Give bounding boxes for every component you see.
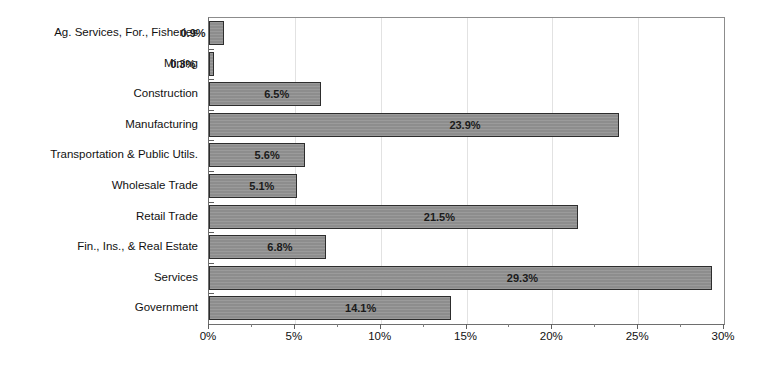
- bar[interactable]: [209, 296, 451, 320]
- category-label: Transportation & Public Utils.: [50, 139, 198, 170]
- bar[interactable]: [209, 113, 619, 137]
- bar-group: 5.6%: [209, 140, 724, 171]
- category-label: Manufacturing: [125, 109, 198, 140]
- bar-group: 5.1%: [209, 171, 724, 202]
- category-label: Services: [154, 262, 198, 293]
- x-tick-minor: [423, 324, 424, 327]
- x-tick-label: 15%: [454, 330, 477, 342]
- x-tick-minor: [337, 324, 338, 327]
- category-label: Government: [135, 292, 198, 323]
- x-tick-major: [294, 324, 295, 329]
- bar[interactable]: [209, 21, 224, 45]
- bar-group: 21.5%: [209, 202, 724, 233]
- bar-value-label: 5.6%: [255, 143, 280, 167]
- x-tick-minor: [251, 324, 252, 327]
- x-tick-minor: [680, 324, 681, 327]
- bar-value-label: 29.3%: [507, 266, 538, 290]
- bar-value-label: 6.8%: [267, 235, 292, 259]
- bar-group: 6.5%: [209, 79, 724, 110]
- x-tick-major: [723, 324, 724, 329]
- bar[interactable]: [209, 205, 578, 229]
- bar[interactable]: [209, 52, 214, 76]
- bar[interactable]: [209, 266, 712, 290]
- bar-value-label: 23.9%: [449, 113, 480, 137]
- bar-group: 23.9%: [209, 110, 724, 141]
- category-label: Fin., Ins., & Real Estate: [77, 231, 198, 262]
- category-label: Retail Trade: [136, 201, 198, 232]
- x-tick-label: 20%: [540, 330, 563, 342]
- x-tick-major: [208, 324, 209, 329]
- bar-group: 0.9%: [209, 18, 724, 49]
- bar-value-label: 0.9%: [180, 21, 205, 45]
- bar-group: 0.3%: [209, 49, 724, 80]
- x-tick-label: 0%: [200, 330, 217, 342]
- x-tick-minor: [594, 324, 595, 327]
- bar-group: 6.8%: [209, 232, 724, 263]
- x-tick-major: [551, 324, 552, 329]
- x-tick-minor: [508, 324, 509, 327]
- bar-value-label: 5.1%: [249, 174, 274, 198]
- bar-value-label: 21.5%: [424, 205, 455, 229]
- bar-group: 14.1%: [209, 293, 724, 324]
- x-tick-major: [466, 324, 467, 329]
- x-tick-label: 25%: [626, 330, 649, 342]
- x-tick-major: [637, 324, 638, 329]
- x-tick-label: 10%: [368, 330, 391, 342]
- bar-value-label: 0.3%: [170, 52, 195, 76]
- bar-chart: Ag. Services, For., FisheriesMiningConst…: [0, 0, 777, 367]
- category-label: Ag. Services, For., Fisheries: [54, 17, 198, 48]
- category-label: Construction: [133, 78, 198, 109]
- bar-value-label: 14.1%: [345, 296, 376, 320]
- x-tick-major: [380, 324, 381, 329]
- plot-area: 0.9%0.3%6.5%23.9%5.6%5.1%21.5%6.8%29.3%1…: [208, 17, 725, 325]
- bar-group: 29.3%: [209, 263, 724, 294]
- x-tick-label: 30%: [711, 330, 734, 342]
- bar-value-label: 6.5%: [264, 82, 289, 106]
- category-label: Wholesale Trade: [112, 170, 198, 201]
- x-tick-label: 5%: [286, 330, 303, 342]
- bar-series: 0.9%0.3%6.5%23.9%5.6%5.1%21.5%6.8%29.3%1…: [209, 18, 724, 324]
